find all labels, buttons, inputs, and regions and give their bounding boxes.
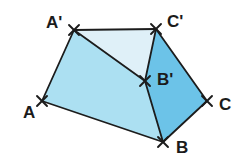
vertex-label-C: C [219,96,231,113]
vertex-label-Cprime: C' [167,13,183,30]
vertex-label-A: A [23,104,35,121]
vertex-label-Aprime: A' [46,14,62,31]
vertex-label-Bprime: B' [157,71,173,88]
segment-Aprime-Cprime [74,29,156,30]
geometry-figure: A A' C' B' C B [0,0,245,164]
vertex-label-B: B [176,139,188,156]
geometry-canvas [0,0,245,164]
